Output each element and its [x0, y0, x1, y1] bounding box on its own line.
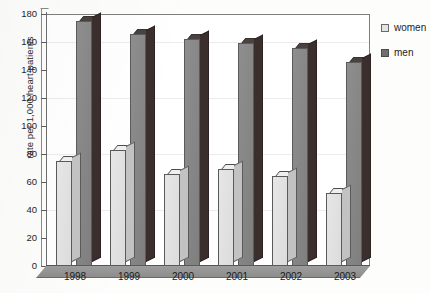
bar-women-2001[interactable] [218, 169, 234, 266]
y-axis-tick-label: 100 [3, 120, 37, 131]
bar-side-face [180, 165, 189, 262]
bar-side-face [146, 25, 155, 262]
y-axis-tick-label: 120 [3, 92, 37, 103]
legend-swatch-men-icon [381, 49, 389, 57]
y-axis-outer-line [41, 8, 42, 266]
x-axis-tick-label: 1998 [45, 271, 105, 282]
legend: women men [381, 22, 426, 72]
y-axis-tick-label: 0 [3, 260, 37, 271]
x-axis-tick-label: 2000 [153, 271, 213, 282]
x-axis-tick-label: 2002 [261, 271, 321, 282]
legend-item-men[interactable]: men [381, 47, 426, 58]
bar-side-face [92, 13, 101, 262]
bar-side-face [200, 31, 209, 262]
legend-item-women[interactable]: women [381, 22, 426, 33]
bar-front-face [218, 169, 234, 266]
bar-women-1998[interactable] [56, 161, 72, 266]
bar-side-face [234, 161, 243, 262]
bar-group [154, 14, 208, 266]
bar-series-container [46, 14, 370, 266]
y-axis-tick-label: 140 [3, 64, 37, 75]
x-axis-tick-label: 2003 [315, 271, 375, 282]
y-axis-tick-label: 40 [3, 204, 37, 215]
bar-side-face [254, 35, 263, 262]
bar-women-2000[interactable] [164, 174, 180, 266]
y-axis-tick-label: 20 [3, 232, 37, 243]
bar-front-face [272, 176, 288, 266]
bar-group [208, 14, 262, 266]
bar-group [316, 14, 370, 266]
bar-front-face [56, 161, 72, 266]
bar-women-1999[interactable] [110, 150, 126, 266]
x-axis-tick-label: 1999 [99, 271, 159, 282]
bar-group [46, 14, 100, 266]
bar-side-face [126, 141, 135, 262]
bar-women-2003[interactable] [326, 193, 342, 266]
bar-side-face [362, 53, 371, 262]
y-axis-tick-label: 160 [3, 36, 37, 47]
legend-label-men: men [394, 47, 413, 58]
bar-front-face [164, 174, 180, 266]
legend-swatch-women-icon [381, 24, 389, 32]
bar-front-face [326, 193, 342, 266]
bar-side-face [342, 185, 351, 262]
legend-label-women: women [394, 22, 426, 33]
bar-side-face [288, 168, 297, 262]
bar-women-2002[interactable] [272, 176, 288, 266]
y-axis-tick-label: 80 [3, 148, 37, 159]
bar-chart: rate per 1,000 heart patients 0204060801… [0, 0, 430, 293]
bar-side-face [308, 39, 317, 262]
bar-front-face [110, 150, 126, 266]
x-axis-tick-label: 2001 [207, 271, 267, 282]
y-axis-tick-label: 180 [3, 8, 37, 19]
bar-group [262, 14, 316, 266]
y-axis-tick-label: 60 [3, 176, 37, 187]
bar-side-face [72, 153, 81, 262]
bar-group [100, 14, 154, 266]
